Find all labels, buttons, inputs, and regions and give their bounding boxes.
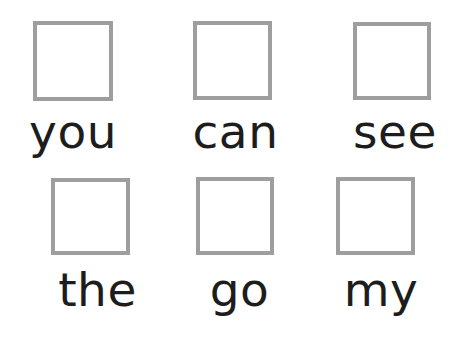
checkbox-my[interactable] xyxy=(336,177,415,255)
word-label-you: you xyxy=(8,108,138,155)
word-label-go: go xyxy=(192,266,287,313)
checkbox-the[interactable] xyxy=(51,178,130,255)
checkbox-can[interactable] xyxy=(193,21,272,100)
word-label-can: can xyxy=(178,108,293,155)
checkbox-see[interactable] xyxy=(353,22,431,100)
checkbox-go[interactable] xyxy=(196,177,274,255)
word-label-see: see xyxy=(345,108,445,155)
word-label-my: my xyxy=(326,266,436,313)
checkbox-you[interactable] xyxy=(33,21,113,101)
sight-word-worksheet: you can see the go my xyxy=(0,0,462,351)
word-label-the: the xyxy=(40,266,155,313)
